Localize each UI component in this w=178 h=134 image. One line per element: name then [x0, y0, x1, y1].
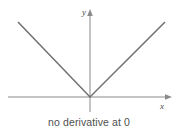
absolute-value-plot: x y [0, 0, 178, 134]
absolute-value-curve [18, 22, 165, 97]
figure-caption: no derivative at 0 [0, 116, 178, 128]
y-axis-arrowhead-icon [87, 9, 93, 16]
figure-container: x y no derivative at 0 [0, 0, 178, 134]
x-axis-arrowhead-icon [165, 94, 172, 100]
y-axis-label: y [81, 7, 86, 17]
x-axis-label: x [159, 101, 164, 111]
